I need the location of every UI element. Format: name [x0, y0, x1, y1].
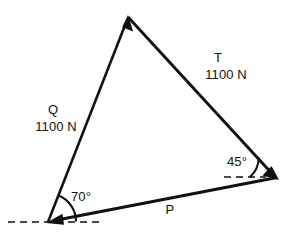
angle-label-70: 70° — [71, 190, 91, 204]
vector-label-T: T — [214, 51, 222, 65]
force-triangle-figure: T 1100 N Q 1100 N P 70° 45° — [0, 0, 290, 243]
vector-label-Q: Q — [48, 103, 58, 117]
vector-label-P: P — [166, 203, 175, 217]
vector-magnitude-T: 1100 N — [205, 68, 247, 82]
vector-magnitude-Q: 1100 N — [35, 120, 77, 134]
angle-label-45: 45° — [227, 155, 247, 169]
